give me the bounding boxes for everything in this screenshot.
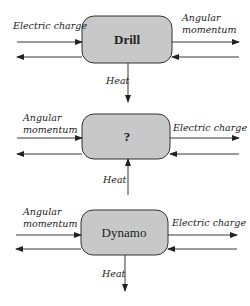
- unknown-heat-label: Heat: [103, 174, 126, 185]
- drill-right-label-line2: momentum: [182, 24, 236, 35]
- unknown-box-label: ?: [124, 129, 131, 145]
- dynamo-box-label: Dynamo: [102, 225, 147, 241]
- unknown-left-label-line1: Angular: [23, 112, 61, 123]
- unknown-right-label: Electric charge: [173, 122, 247, 133]
- drill-left-label: Electric charge: [13, 20, 87, 31]
- dynamo-left-label-line1: Angular: [23, 206, 61, 217]
- drill-heat-label: Heat: [106, 75, 129, 86]
- dynamo-right-label: Electric charge: [172, 217, 246, 228]
- drill-box-label: Drill: [114, 32, 140, 48]
- dynamo-heat-label: Heat: [102, 268, 125, 279]
- drill-right-label-line1: Angular: [182, 12, 220, 23]
- unknown-left-label-line2: momentum: [23, 124, 77, 135]
- dynamo-left-label-line2: momentum: [23, 218, 77, 229]
